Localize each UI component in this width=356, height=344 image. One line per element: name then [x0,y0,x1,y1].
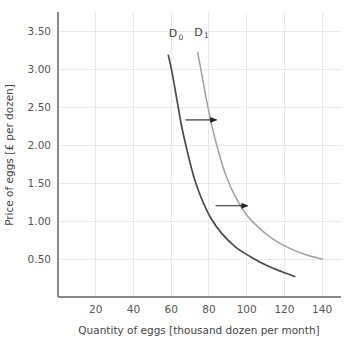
x-tick-label: 100 [237,303,257,315]
curve-label-subscript: 1 [204,31,209,40]
x-tick-label: 80 [202,303,215,315]
y-tick-label: 1.50 [28,177,51,189]
chart-canvas: 0.501.001.502.002.503.003.50 20406080100… [0,0,356,344]
curve-label-text: D [194,26,202,39]
y-tick-label: 1.00 [28,215,51,227]
y-tick-label: 3.50 [28,25,51,37]
x-tick-label: 40 [127,303,140,315]
x-tick-label: 120 [274,303,294,315]
x-axis-title: Quantity of eggs [thousand dozen per mon… [78,324,319,336]
y-axis-title: Price of eggs [£ per dozen] [3,84,15,226]
curve-label-text: D [169,27,177,40]
y-tick-label: 0.50 [28,253,51,265]
chart-background [0,0,356,344]
curve-label-subscript: 0 [179,33,184,42]
y-tick-label: 2.50 [28,101,51,113]
y-tick-label: 2.00 [28,139,51,151]
x-tick-label: 60 [165,303,178,315]
y-tick-label: 3.00 [28,63,51,75]
x-tick-label: 20 [89,303,102,315]
demand-shift-chart: 0.501.001.502.002.503.003.50 20406080100… [0,0,356,344]
x-tick-label: 140 [312,303,332,315]
